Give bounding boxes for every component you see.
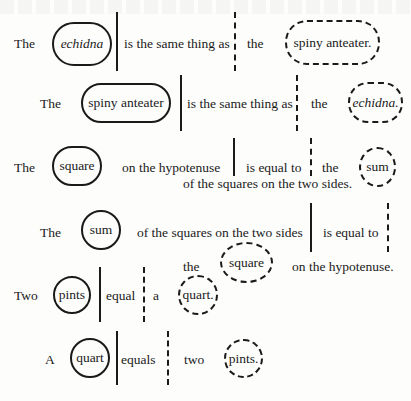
object-term-circle: pints. (224, 339, 263, 378)
subject-prefix: The (14, 37, 35, 51)
object-prefix: a (153, 289, 159, 303)
object-prefix: two (184, 353, 204, 367)
object-suffix: of the squares on the two sides. (183, 177, 352, 191)
dashed-divider (167, 331, 169, 385)
dashed-divider (387, 203, 389, 252)
dashed-divider (234, 12, 236, 71)
subject-term-oval: echidna (52, 22, 112, 66)
subject-term-circle: pints (53, 276, 91, 314)
solid-divider (180, 75, 182, 131)
copula-text: is the same thing as (187, 97, 293, 111)
object-prefix: the (247, 37, 264, 51)
object-term-oval: square (220, 242, 273, 283)
dashed-divider (296, 75, 298, 131)
object-term-circle: quart. (178, 275, 218, 315)
object-prefix: the (322, 161, 339, 175)
dashed-divider (143, 267, 145, 322)
subject-term-circle: quart (70, 338, 110, 378)
subject-prefix: Two (14, 289, 38, 303)
subject-term-circle: sum (81, 210, 121, 250)
solid-divider (116, 331, 118, 385)
solid-divider (233, 138, 235, 176)
object-prefix: the (183, 260, 200, 274)
subject-prefix: The (40, 226, 61, 240)
page-bleed-through (0, 0, 411, 14)
object-suffix: on the hypotenuse. (292, 260, 394, 274)
solid-divider (310, 203, 312, 252)
object-prefix: the (311, 97, 328, 111)
subject-term-oval: square (52, 146, 102, 186)
dashed-divider (310, 138, 312, 176)
object-term-oval: echidna. (348, 82, 403, 123)
subject-prefix: A (45, 353, 55, 367)
copula-text: equal (106, 289, 135, 303)
subject-term-oval: spiny anteater (81, 83, 171, 123)
subject-prefix: The (40, 97, 61, 111)
solid-divider (116, 12, 118, 71)
object-term-oval: spiny anteater. (285, 20, 380, 65)
subject-prefix: The (14, 161, 35, 175)
subject-suffix: of the squares on the two sides (137, 226, 303, 240)
copula-text: is equal to (246, 161, 302, 175)
solid-divider (99, 267, 101, 322)
object-term-circle: sum (359, 147, 396, 187)
copula-text: equals (121, 353, 156, 367)
copula-text: is the same thing as (124, 37, 230, 51)
copula-text: is equal to (323, 226, 379, 240)
subject-suffix: on the hypotenuse (122, 161, 220, 175)
